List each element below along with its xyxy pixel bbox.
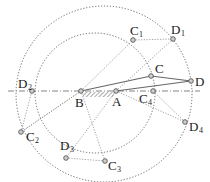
label-A: A	[112, 94, 122, 109]
point-A	[114, 89, 119, 94]
label-C3: C	[108, 158, 117, 173]
label-B: B	[75, 95, 84, 110]
construction-lines	[21, 39, 185, 161]
point-C	[149, 74, 154, 79]
point-D	[189, 79, 194, 84]
label-C2: C	[26, 129, 35, 144]
point-D4	[183, 120, 188, 125]
label-D1-sub: 1	[181, 29, 185, 38]
label-D3-sub: 3	[70, 145, 74, 154]
label-D2: D	[18, 76, 27, 91]
label-C4-sub: 4	[148, 98, 152, 107]
label-C1: C	[130, 23, 139, 38]
linkage-diagram: B A C D C 1 D 1 D 2 C 2 D 3 C 3 C 4 D 4	[0, 0, 210, 182]
point-D3	[64, 156, 69, 161]
label-C4: C	[139, 91, 148, 106]
label-D: D	[195, 74, 204, 89]
label-D3: D	[60, 138, 69, 153]
label-D2-sub: 2	[28, 83, 32, 92]
label-C3-sub: 3	[117, 165, 121, 174]
point-C2	[19, 130, 24, 135]
point-C1	[131, 38, 136, 43]
label-D1: D	[171, 22, 180, 37]
point-D1	[171, 37, 176, 42]
point-B	[79, 89, 84, 94]
ground-hatch	[83, 92, 114, 97]
linkage-bars	[81, 76, 191, 91]
label-D4-sub: 4	[199, 126, 203, 135]
point-C3	[103, 159, 108, 164]
label-C1-sub: 1	[139, 30, 143, 39]
point-C4	[151, 89, 156, 94]
label-D4: D	[189, 119, 198, 134]
label-C: C	[155, 61, 164, 76]
label-C2-sub: 2	[35, 136, 39, 145]
